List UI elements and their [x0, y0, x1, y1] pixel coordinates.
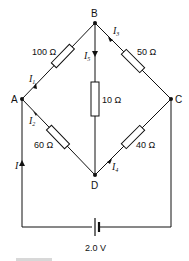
node-b-label: B [91, 8, 98, 19]
resistor-label-50: 50 Ω [137, 47, 157, 57]
node-d-label: D [91, 180, 98, 191]
current-label-i3: I3 [112, 25, 119, 37]
resistor-label-60: 60 Ω [34, 140, 54, 150]
battery-voltage-label: 2.0 V [85, 243, 106, 253]
battery-icon [95, 218, 99, 236]
node-d-dot [93, 173, 97, 177]
node-c-label: C [175, 94, 182, 105]
current-label-i4: I4 [111, 161, 118, 173]
arrow-i5-icon [92, 51, 98, 57]
node-a-dot [20, 97, 24, 101]
resistor-10-ohm [91, 82, 99, 116]
arrow-i3-icon [108, 37, 113, 42]
node-a-label: A [11, 94, 18, 105]
current-label-i: I [14, 160, 19, 171]
current-label-i2: I2 [28, 115, 35, 127]
current-label-i1: I1 [28, 73, 35, 85]
circuit-diagram: B A C D 100 Ω 50 Ω 10 Ω 60 Ω 40 Ω I1 I2 … [0, 0, 189, 261]
wire-left-loop [22, 99, 92, 227]
resistor-label-40: 40 Ω [136, 140, 156, 150]
arrow-i-icon [19, 160, 25, 166]
current-label-i5: I5 [83, 50, 90, 62]
node-c-dot [169, 97, 173, 101]
node-b-dot [93, 21, 97, 25]
resistor-label-100: 100 Ω [32, 47, 57, 57]
resistor-label-10: 10 Ω [102, 95, 122, 105]
